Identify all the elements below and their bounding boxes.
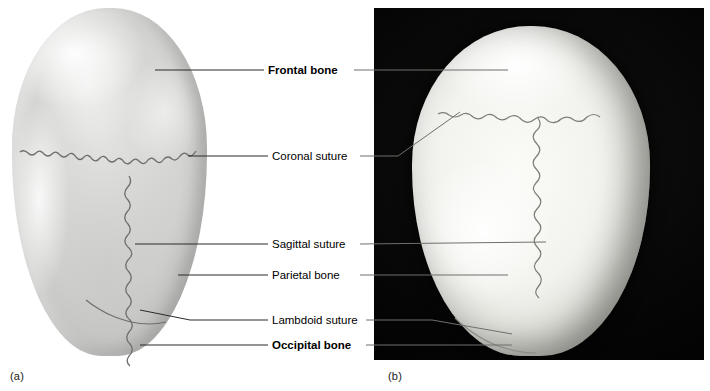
panel-b-photograph: [374, 8, 704, 360]
label-frontal-bone: Frontal bone: [268, 64, 338, 76]
anatomy-figure: Frontal bone Coronal suture Sagittal sut…: [0, 0, 710, 391]
panel-caption-a: (a): [10, 370, 24, 382]
skull-photograph: [412, 26, 650, 356]
label-coronal-suture: Coronal suture: [272, 150, 347, 162]
panel-caption-b: (b): [388, 370, 402, 382]
label-lambdoid-suture: Lambdoid suture: [272, 314, 358, 326]
label-parietal-bone: Parietal bone: [272, 269, 340, 281]
label-occipital-bone: Occipital bone: [272, 339, 351, 351]
panel-a-illustration: [0, 0, 270, 360]
label-sagittal-suture: Sagittal suture: [272, 238, 346, 250]
skull-illustration: [12, 8, 207, 356]
